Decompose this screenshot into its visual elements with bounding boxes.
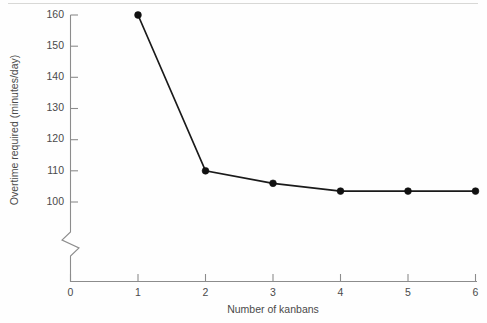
x-tick-label-4: 4 [338,286,344,298]
y-tick-label-110: 110 [47,164,64,176]
y-tick-label-160: 160 [46,8,64,20]
x-axis-title: Number of kanbans [227,303,319,315]
y-tick-label-130: 130 [46,101,64,113]
y-tick-label-140: 140 [46,70,64,82]
data-series-line [138,15,476,191]
x-tick-label-3: 3 [270,286,276,298]
data-point [472,188,479,195]
figure-canvas: Overtime required (minutes/day) 160 150 … [0,0,487,323]
data-point [337,188,344,195]
data-point [270,180,277,187]
data-point [135,12,142,19]
y-axis-title: Overtime required (minutes/day) [8,55,20,206]
data-point [405,188,412,195]
x-tick-label-2: 2 [203,286,209,298]
y-tick-label-100: 100 [46,195,64,207]
y-tick-label-150: 150 [46,39,64,51]
x-tick-label-1: 1 [135,286,141,298]
y-tick-label-120: 120 [46,132,64,144]
data-point [202,167,209,174]
x-tick-label-5: 5 [405,286,411,298]
line-chart: Overtime required (minutes/day) 160 150 … [0,0,487,323]
data-series-markers [135,12,479,195]
x-tick-label-0: 0 [68,286,74,298]
y-axis-break-zigzag [62,202,79,282]
x-tick-label-6: 6 [473,286,479,298]
